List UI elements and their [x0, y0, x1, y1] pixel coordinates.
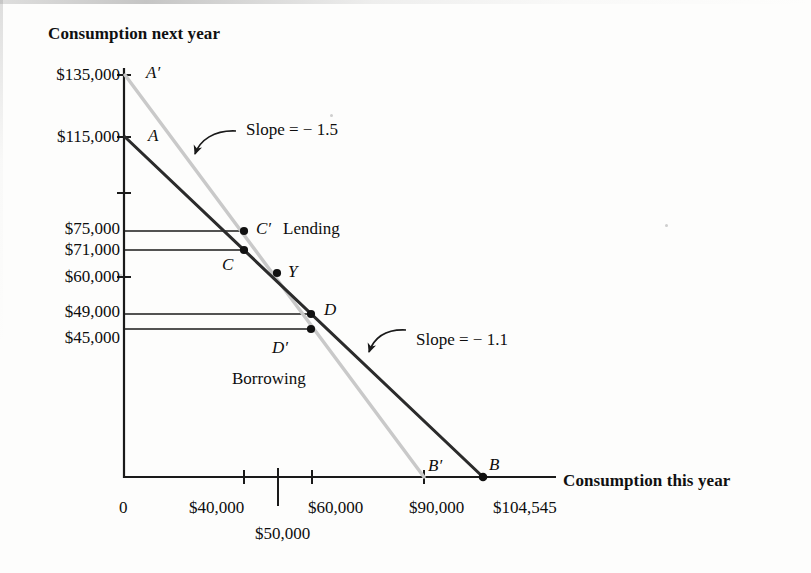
data-point-y [273, 269, 281, 277]
slope-1-5-arrow [195, 131, 236, 154]
slope-annotation-1-5: Slope = − 1.5 [246, 120, 338, 140]
point-label-y: Y [288, 262, 297, 282]
slope-annotation-1-1: Slope = − 1.1 [416, 330, 508, 350]
budget-line-slope-1-1 [125, 137, 483, 477]
point-label-d: D [324, 300, 336, 320]
x-tick-label-50000: $50,000 [255, 524, 310, 544]
data-point-d [307, 310, 315, 318]
data-point-c [240, 246, 248, 254]
y-tick-label-75000: $75,000 [44, 219, 120, 239]
data-point-b [479, 473, 488, 482]
x-tick-label-40000: $40,000 [189, 498, 244, 518]
point-label-c: C [222, 255, 233, 275]
lending-region-label: Lending [283, 219, 340, 239]
point-label-a: A [148, 126, 158, 146]
data-point-d-prime [307, 325, 315, 333]
x-tick-label-0: 0 [119, 498, 128, 518]
slope-1-1-arrow [369, 330, 406, 352]
y-tick-label-71000: $71,000 [44, 240, 120, 260]
borrowing-region-label: Borrowing [232, 369, 306, 389]
chart-page: Consumption next year Consumption this y… [0, 0, 811, 573]
x-tick-label-60000: $60,000 [308, 498, 363, 518]
point-label-d-prime: D′ [272, 338, 288, 358]
point-label-c-prime: C′ [256, 219, 271, 239]
point-label-b-prime: B′ [428, 456, 442, 476]
y-tick-label-135000: $135,000 [44, 65, 120, 85]
x-tick-label-90000: $90,000 [409, 498, 464, 518]
y-tick-label-60000: $60,000 [44, 267, 120, 287]
point-label-a-prime: A′ [146, 63, 160, 83]
y-tick-label-49000: $49,000 [44, 302, 120, 322]
y-tick-label-45000: $45,000 [44, 328, 120, 348]
point-label-b: B [489, 455, 499, 475]
data-point-c-prime [240, 227, 248, 235]
x-tick-label-104545: $104,545 [493, 498, 557, 518]
y-tick-label-115000: $115,000 [44, 127, 120, 147]
chart-plot-area [0, 0, 811, 573]
